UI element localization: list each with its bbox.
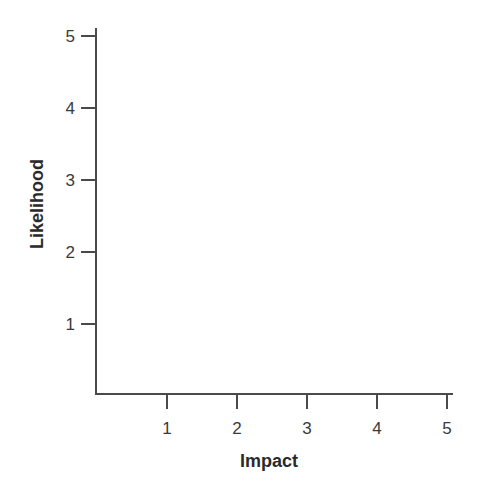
y-tick-3: [81, 179, 96, 181]
y-tick-5: [81, 35, 96, 37]
y-tick-label-3: 3: [55, 172, 75, 189]
y-tick-label-4: 4: [55, 100, 75, 117]
y-tick-label-1: 1: [55, 316, 75, 333]
x-tick-label-2: 2: [227, 420, 247, 437]
y-tick-label-5: 5: [55, 28, 75, 45]
x-tick-1: [166, 394, 168, 409]
x-axis-line: [95, 393, 453, 395]
y-axis-title: Likelihood: [28, 159, 46, 249]
y-tick-2: [81, 251, 96, 253]
y-tick-1: [81, 323, 96, 325]
y-tick-label-2: 2: [55, 244, 75, 261]
x-axis-title: Impact: [240, 452, 298, 470]
x-tick-label-5: 5: [437, 420, 457, 437]
x-tick-5: [446, 394, 448, 409]
y-axis-line: [95, 28, 97, 395]
x-tick-4: [376, 394, 378, 409]
x-tick-label-3: 3: [297, 420, 317, 437]
x-tick-3: [306, 394, 308, 409]
y-tick-4: [81, 107, 96, 109]
x-tick-label-4: 4: [367, 420, 387, 437]
x-tick-2: [236, 394, 238, 409]
x-tick-label-1: 1: [157, 420, 177, 437]
